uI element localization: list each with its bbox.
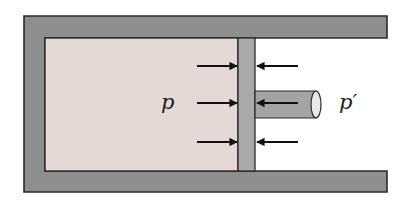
gas-chamber (45, 38, 238, 171)
piston-plate (238, 38, 255, 171)
piston-cylinder-diagram: p p′ (0, 0, 417, 209)
inside-pressure-label: p (161, 92, 174, 113)
outside-pressure-arrows (257, 66, 298, 142)
outside-pressure-label: p′ (339, 92, 357, 113)
rod-end-face (311, 91, 321, 118)
piston-rod (255, 91, 321, 118)
